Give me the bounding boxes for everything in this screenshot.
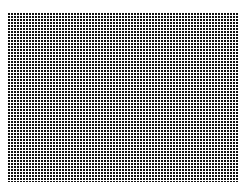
dot-grid-pattern [8, 12, 238, 182]
image-canvas [0, 0, 246, 191]
